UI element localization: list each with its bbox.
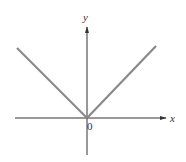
x-axis-label: x xyxy=(169,112,175,124)
left-branch-line xyxy=(17,48,87,118)
abs-value-graph: x y 0 xyxy=(0,0,186,162)
origin-label: 0 xyxy=(87,120,93,132)
right-branch-line xyxy=(87,46,156,118)
y-axis-label: y xyxy=(82,11,88,23)
